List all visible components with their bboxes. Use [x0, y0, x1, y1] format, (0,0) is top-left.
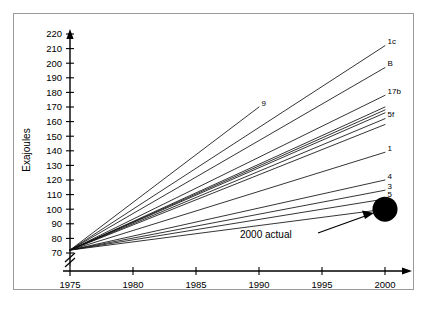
scenario-label-B: B [388, 59, 393, 68]
chart-canvas: 7080901001101201301401501601701801902002… [0, 0, 427, 316]
x-tick-label: 1980 [122, 279, 143, 290]
x-tick-label: 1990 [248, 279, 269, 290]
x-tick-label: 1995 [311, 279, 332, 290]
y-tick-label: 170 [46, 101, 62, 112]
scenario-label-1: 1 [388, 144, 393, 153]
scenario-label-17b: 17b [388, 87, 402, 96]
y-tick-label: 140 [46, 145, 62, 156]
scenario-label-5f: 5f [388, 110, 395, 119]
actual-annotation-label: 2000 actual [240, 229, 292, 240]
y-tick-label: 90 [51, 218, 62, 229]
y-tick-label: 70 [51, 247, 62, 258]
scenario-label-4: 4 [388, 172, 393, 181]
y-tick-label: 100 [46, 204, 62, 215]
scenario-label-1c: 1c [388, 37, 396, 46]
y-tick-label: 220 [46, 28, 62, 39]
x-tick-label: 2000 [374, 279, 395, 290]
y-tick-label: 190 [46, 72, 62, 83]
y-tick-label: 160 [46, 116, 62, 127]
y-tick-label: 120 [46, 174, 62, 185]
y-tick-label: 210 [46, 43, 62, 54]
scenario-label-3: 3 [388, 182, 393, 191]
actual-2000-marker [373, 197, 398, 222]
x-tick-label: 1975 [59, 279, 80, 290]
y-axis-title: Exajoules [21, 128, 32, 171]
projection-fan-chart: 7080901001101201301401501601701801902002… [0, 0, 427, 316]
y-tick-label: 130 [46, 160, 62, 171]
y-tick-label: 200 [46, 58, 62, 69]
scenario-label-9: 9 [262, 99, 267, 108]
y-tick-label: 180 [46, 87, 62, 98]
x-tick-label: 1985 [185, 279, 206, 290]
y-tick-label: 150 [46, 131, 62, 142]
y-tick-label: 80 [51, 233, 62, 244]
y-tick-label: 110 [47, 189, 62, 200]
